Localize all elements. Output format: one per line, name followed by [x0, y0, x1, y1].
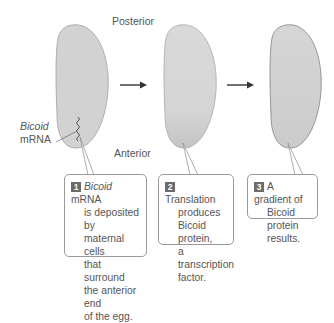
step-3-badge: 3 — [254, 182, 264, 192]
step-1-callout: 1Bicoid mRNA is deposited by maternal ce… — [64, 174, 147, 257]
step-3-line-3: results. — [254, 232, 312, 245]
bicoid-label: Bicoid — [20, 120, 49, 132]
anterior-label: Anterior — [114, 147, 151, 159]
step-2-line-2: produces — [165, 206, 228, 219]
step-3-line-2: Bicoid protein — [254, 206, 312, 232]
step-3-line-1: 3A gradient of — [254, 180, 312, 206]
mrna-label: mRNA — [20, 133, 51, 145]
arrow-1-icon — [120, 82, 147, 89]
step-1-line-6: of the egg. — [71, 310, 141, 323]
step-1-line-5: the anterior end — [71, 284, 141, 310]
step-2-line-1: 2Translation — [165, 180, 228, 206]
step-2-line-5: factor. — [165, 271, 228, 284]
step-2-callout: 2Translation produces Bicoid protein, a … — [158, 174, 234, 245]
step-1-line-3: maternal cells — [71, 232, 141, 258]
step-1-line-1: 1Bicoid mRNA — [71, 180, 141, 206]
arrow-2-icon — [227, 82, 254, 89]
step-2-line-4: a transcription — [165, 245, 228, 271]
step-2-line-3: Bicoid protein, — [165, 219, 228, 245]
step-1-line-4: that surround — [71, 258, 141, 284]
step-2-badge: 2 — [165, 182, 175, 192]
posterior-label: Posterior — [112, 15, 154, 27]
callout-3-pointer — [288, 143, 303, 175]
callout-2-pointer — [183, 143, 198, 175]
egg-3 — [270, 25, 321, 148]
step-3-callout: 3A gradient of Bicoid protein results. — [247, 174, 318, 219]
egg-2 — [164, 25, 216, 148]
step-1-badge: 1 — [71, 182, 81, 192]
step-1-line-2: is deposited by — [71, 206, 141, 232]
egg-1 — [56, 25, 108, 148]
